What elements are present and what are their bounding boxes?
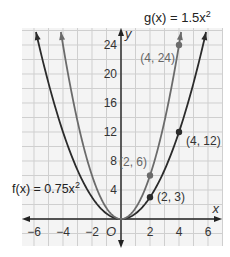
x-axis-label: x xyxy=(212,201,220,216)
y-tick-label: 4 xyxy=(110,183,117,197)
x-tick-label: 2 xyxy=(147,225,154,239)
origin-label: O xyxy=(106,224,116,239)
exponent: 2 xyxy=(75,180,80,190)
data-point xyxy=(176,129,182,135)
x-tick-label: −4 xyxy=(56,225,70,239)
y-tick-label: 20 xyxy=(104,67,118,81)
y-tick-label: 24 xyxy=(104,38,118,52)
x-tick-label: −2 xyxy=(85,225,99,239)
data-point xyxy=(147,172,153,178)
y-tick-label: 12 xyxy=(104,125,118,139)
point-label: (4, 12) xyxy=(186,134,221,148)
parabola-chart: −6−4−22464812162024Oxy(2, 3)(4, 12)(2, 6… xyxy=(0,0,230,257)
x-tick-label: 6 xyxy=(205,225,212,239)
g-function-label: g(x) = 1.5x2 xyxy=(144,9,211,25)
data-point xyxy=(176,42,182,48)
point-label: (2, 3) xyxy=(157,190,185,204)
exponent: 2 xyxy=(206,9,211,19)
x-tick-label: −6 xyxy=(27,225,41,239)
point-label: (4, 24) xyxy=(140,51,175,65)
point-label: (2, 6) xyxy=(119,155,147,169)
data-point xyxy=(147,194,153,200)
y-tick-label: 8 xyxy=(110,154,117,168)
y-tick-label: 16 xyxy=(104,96,118,110)
f-function-label: f(x) = 0.75x2 xyxy=(12,180,80,196)
x-tick-label: 4 xyxy=(176,225,183,239)
